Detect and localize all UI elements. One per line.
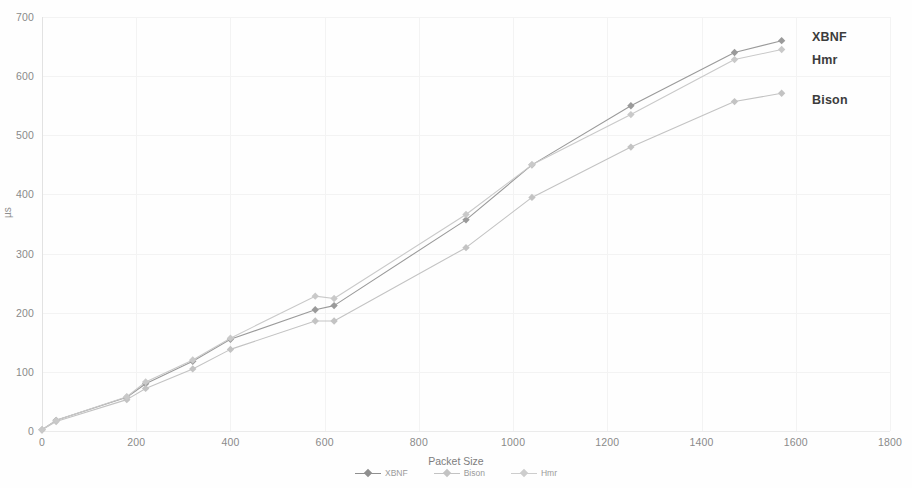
gridline-vertical	[890, 17, 891, 431]
legend-item-xbnf[interactable]: XBNF	[355, 468, 408, 478]
inline-label-xbnf: XBNF	[812, 30, 847, 44]
legend-item-hmr[interactable]: Hmr	[511, 468, 557, 478]
legend-item-bison[interactable]: Bison	[434, 468, 485, 478]
x-axis-line	[42, 431, 890, 432]
gridline-vertical	[419, 17, 420, 431]
gridline-horizontal	[42, 135, 890, 136]
legend-swatch-icon	[355, 469, 381, 477]
y-tick-label: 600	[0, 70, 34, 82]
x-tick-label: 0	[12, 436, 72, 448]
gridline-vertical	[513, 17, 514, 431]
x-axis-title: Packet Size	[0, 455, 912, 467]
legend-swatch-icon	[511, 469, 537, 477]
gridline-horizontal	[42, 17, 890, 18]
gridline-horizontal	[42, 254, 890, 255]
y-tick-label: 300	[0, 248, 34, 260]
gridline-vertical	[230, 17, 231, 431]
gridline-vertical	[136, 17, 137, 431]
x-tick-label: 1000	[483, 436, 543, 448]
y-axis-title: µs	[2, 207, 13, 218]
x-tick-label: 1400	[672, 436, 732, 448]
y-tick-label: 200	[0, 307, 34, 319]
y-tick-label: 500	[0, 129, 34, 141]
gridline-vertical	[702, 17, 703, 431]
x-tick-label: 800	[389, 436, 449, 448]
x-tick-label: 1200	[577, 436, 637, 448]
gridline-horizontal	[42, 372, 890, 373]
y-tick-label: 700	[0, 11, 34, 23]
gridline-horizontal	[42, 76, 890, 77]
y-axis-line	[42, 17, 43, 431]
x-tick-label: 600	[295, 436, 355, 448]
inline-label-bison: Bison	[812, 93, 848, 107]
legend-label: XBNF	[385, 468, 408, 478]
y-tick-label: 100	[0, 366, 34, 378]
gridline-vertical	[796, 17, 797, 431]
plot-area	[42, 17, 890, 431]
inline-label-hmr: Hmr	[812, 53, 838, 67]
gridline-horizontal	[42, 313, 890, 314]
x-tick-label: 200	[106, 436, 166, 448]
y-tick-label: 400	[0, 188, 34, 200]
legend-swatch-icon	[434, 469, 460, 477]
gridline-vertical	[325, 17, 326, 431]
chart-container: 0100200300400500600700 02004006008001000…	[0, 0, 912, 488]
gridline-horizontal	[42, 194, 890, 195]
chart-legend: XBNFBisonHmr	[0, 468, 912, 478]
x-tick-label: 400	[200, 436, 260, 448]
legend-label: Bison	[464, 468, 485, 478]
x-tick-label: 1800	[860, 436, 912, 448]
legend-label: Hmr	[541, 468, 557, 478]
gridline-vertical	[607, 17, 608, 431]
x-tick-label: 1600	[766, 436, 826, 448]
